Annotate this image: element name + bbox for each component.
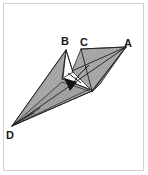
vertex-label-c: C: [80, 36, 88, 48]
vertex-label-d: D: [6, 129, 14, 141]
vertex-label-a: A: [124, 37, 132, 49]
vertex-label-b: B: [61, 35, 69, 47]
geometry-figure: A B C D: [0, 0, 148, 175]
